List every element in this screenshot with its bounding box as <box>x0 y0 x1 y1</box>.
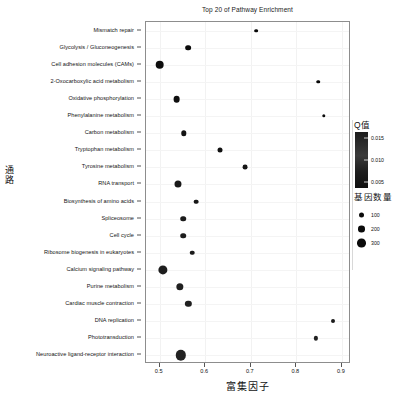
data-point <box>176 283 183 290</box>
data-point <box>181 216 187 222</box>
y-axis-tick-label: Phototransduction <box>88 334 134 340</box>
y-axis-tick-label: Glycolysis / Gluconeogenesis <box>60 44 134 50</box>
y-axis-tick-label: Cell adhesion molecules (CAMs) <box>51 61 134 67</box>
y-axis-tick-labels: Mismatch repairGlycolysis / Gluconeogene… <box>0 21 141 363</box>
data-points-layer <box>146 22 349 362</box>
y-axis-tick-label: Cardiac muscle contraction <box>65 300 134 306</box>
y-axis-tick-label: Tyrosine metabolism <box>82 163 134 169</box>
data-point <box>243 165 248 170</box>
y-axis-tick-mark <box>137 268 141 269</box>
x-axis-tick-mark <box>204 363 205 367</box>
colorbar-tick-label: 0.005 <box>371 179 384 185</box>
y-axis-tick-label: Cell cycle <box>110 232 134 238</box>
data-point <box>254 29 258 33</box>
y-axis-tick-mark <box>137 183 141 184</box>
legend-size-item: 200 <box>354 222 408 236</box>
y-axis-tick-mark <box>137 217 141 218</box>
x-axis-tick-label: 0.8 <box>291 368 299 374</box>
data-point <box>314 336 318 340</box>
y-axis-tick-mark <box>137 80 141 81</box>
y-axis-tick-mark <box>137 149 141 150</box>
data-point <box>176 350 186 360</box>
legend-divider <box>352 120 353 270</box>
y-axis-tick-label: DNA replication <box>95 317 134 323</box>
y-axis-title: 通路 <box>3 165 16 185</box>
y-axis-tick-label: Neuroactive ligand-receptor interaction <box>36 351 134 357</box>
data-point <box>181 130 186 135</box>
y-axis-tick-label: Phenylalanine metabolism <box>68 112 135 118</box>
y-axis-tick-mark <box>137 97 141 98</box>
x-axis-tick-mark <box>341 363 342 367</box>
y-axis-tick-label: Mismatch repair <box>93 27 134 33</box>
legend-size-swatch <box>355 237 368 250</box>
legend-size-item: 300 <box>354 236 408 250</box>
plot-area <box>145 21 350 363</box>
y-axis-tick-mark <box>137 234 141 235</box>
x-axis-tick-mark <box>250 363 251 367</box>
colorbar-tick-label: 0.015 <box>371 135 384 141</box>
y-axis-tick-mark <box>137 303 141 304</box>
colorbar-tick-mark <box>364 138 368 139</box>
chart-title: Top 20 of Pathway Enrichment <box>145 6 350 13</box>
y-axis-tick-mark <box>137 354 141 355</box>
x-axis-tick-label: 0.5 <box>155 368 163 374</box>
gene-count-size-legend: 100200300 <box>354 208 408 250</box>
data-point <box>218 148 223 153</box>
legend-size-dot <box>359 213 364 218</box>
y-axis-tick-label: Purine metabolism <box>87 283 134 289</box>
colorbar-tick-mark <box>364 160 368 161</box>
data-point <box>190 251 195 256</box>
qvalue-colorbar: 0.0150.0100.005 <box>354 132 408 190</box>
legend: Q值 0.0150.0100.005 基因数量 100200300 <box>354 118 408 250</box>
legend-size-dot <box>357 239 366 248</box>
y-axis-tick-mark <box>137 251 141 252</box>
y-axis-tick-label: Spliceosome <box>101 215 134 221</box>
data-point <box>322 114 325 117</box>
x-axis-title: 富集因子 <box>145 378 350 393</box>
y-axis-tick-label: Ribosome biogenesis in eukaryotes <box>44 249 134 255</box>
y-axis-tick-mark <box>137 46 141 47</box>
data-point <box>155 60 164 69</box>
y-axis-tick-mark <box>137 115 141 116</box>
x-axis-tick-labels: 0.50.60.70.80.9 <box>145 363 350 379</box>
y-axis-tick-mark <box>137 29 141 30</box>
pathway-enrichment-chart: Top 20 of Pathway Enrichment Mismatch re… <box>0 0 408 404</box>
data-point <box>194 199 199 204</box>
legend-size-item: 100 <box>354 208 408 222</box>
y-axis-tick-mark <box>137 320 141 321</box>
y-axis-tick-mark <box>137 337 141 338</box>
y-axis-tick-label: 2-Oxocarboxylic acid metabolism <box>50 78 134 84</box>
legend-size-label: 200 <box>371 226 380 232</box>
y-axis-tick-label: Carbon metabolism <box>85 129 134 135</box>
legend-size-swatch <box>355 209 368 222</box>
y-axis-tick-mark <box>137 286 141 287</box>
gene-count-legend-title: 基因数量 <box>354 190 408 202</box>
data-point <box>331 319 335 323</box>
data-point <box>185 45 191 51</box>
y-axis-tick-mark <box>137 200 141 201</box>
legend-size-dot <box>358 226 365 233</box>
x-axis-tick-label: 0.9 <box>337 368 345 374</box>
data-point <box>173 96 180 103</box>
data-point <box>181 233 187 239</box>
legend-size-label: 300 <box>371 240 380 246</box>
y-axis-tick-label: Biosynthesis of amino acids <box>64 198 134 204</box>
qvalue-legend-title: Q值 <box>354 118 408 130</box>
y-axis-tick-mark <box>137 132 141 133</box>
legend-size-label: 100 <box>371 212 380 218</box>
data-point <box>158 265 167 274</box>
data-point <box>185 301 191 307</box>
y-axis-tick-label: Oxidative phosphorylation <box>68 95 134 101</box>
data-point <box>316 80 320 84</box>
x-axis-tick-mark <box>159 363 160 367</box>
colorbar-tick-mark <box>364 182 368 183</box>
legend-size-swatch <box>355 223 368 236</box>
y-axis-tick-mark <box>137 63 141 64</box>
colorbar-tick-label: 0.010 <box>371 157 384 163</box>
x-axis-tick-label: 0.6 <box>200 368 208 374</box>
x-axis-tick-label: 0.7 <box>246 368 254 374</box>
y-axis-tick-label: RNA transport <box>98 180 134 186</box>
y-axis-tick-label: Calcium signaling pathway <box>67 266 134 272</box>
data-point <box>174 181 181 188</box>
x-axis-tick-mark <box>295 363 296 367</box>
